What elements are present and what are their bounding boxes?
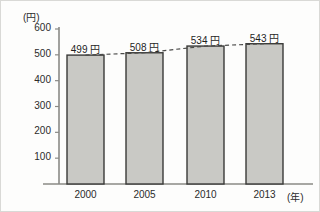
x-axis-tick-label: 2005 xyxy=(122,189,168,200)
bar xyxy=(67,55,104,184)
bar xyxy=(126,53,163,184)
bar xyxy=(187,46,224,184)
x-axis-tick-label: 2013 xyxy=(242,189,288,200)
y-axis-tick-label: 500 xyxy=(21,48,51,59)
bar-value-label: 543 円 xyxy=(239,30,291,45)
bar-value-label: 499 円 xyxy=(60,41,112,56)
y-axis-tick-label: 600 xyxy=(21,22,51,33)
y-axis-tick-label: 100 xyxy=(21,151,51,162)
y-axis-tick-label: 400 xyxy=(21,74,51,85)
y-axis-tick-label: 200 xyxy=(21,125,51,136)
bars-group xyxy=(67,44,283,184)
y-axis-tick-label: 300 xyxy=(21,100,51,111)
bar-value-label: 534 円 xyxy=(180,32,232,47)
x-axis-tick-label: 2000 xyxy=(63,189,109,200)
bar-value-label: 508 円 xyxy=(119,39,171,54)
bar xyxy=(246,44,283,184)
trend-line-group xyxy=(86,44,265,55)
bar-chart-figure: (円) (年) 600500400300200100 2000200520102… xyxy=(0,0,320,212)
x-axis-tick-label: 2010 xyxy=(183,189,229,200)
trend-line xyxy=(86,44,265,55)
